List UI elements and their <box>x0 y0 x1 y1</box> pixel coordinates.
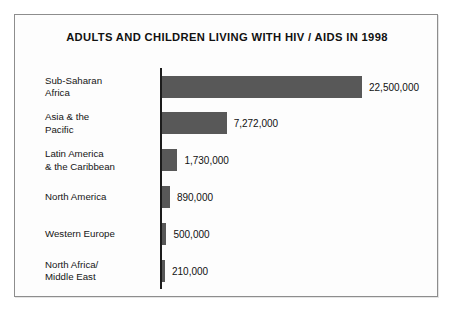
category-label: Western Europe <box>45 227 155 239</box>
bar <box>162 186 170 208</box>
chart-row: North Africa/ Middle East210,000 <box>15 252 439 289</box>
chart-row: Western Europe500,000 <box>15 215 439 252</box>
category-label: North America <box>45 191 155 203</box>
category-label: Asia & the Pacific <box>45 111 155 136</box>
bar <box>162 76 362 98</box>
bar-value-label: 7,272,000 <box>234 118 279 129</box>
bar <box>162 149 177 171</box>
chart-row: Asia & the Pacific7,272,000 <box>15 105 439 142</box>
category-label: Latin America & the Caribbean <box>45 148 155 173</box>
category-label: Sub-Saharan Africa <box>45 74 155 99</box>
chart-row: North America890,000 <box>15 178 439 215</box>
bar-value-label: 22,500,000 <box>369 81 419 92</box>
bar <box>162 223 166 245</box>
chart-row: Latin America & the Caribbean1,730,000 <box>15 142 439 179</box>
chart-row: Sub-Saharan Africa22,500,000 <box>15 68 439 105</box>
bar <box>162 260 165 282</box>
bar-value-label: 890,000 <box>177 191 213 202</box>
chart-frame: ADULTS AND CHILDREN LIVING WITH HIV / AI… <box>14 14 438 297</box>
bar-value-label: 210,000 <box>172 265 208 276</box>
bar-value-label: 1,730,000 <box>184 155 229 166</box>
bar-value-label: 500,000 <box>173 228 209 239</box>
bar-chart-plot-area: Sub-Saharan Africa22,500,000Asia & the P… <box>15 15 439 298</box>
category-label: North Africa/ Middle East <box>45 258 155 283</box>
bar <box>162 112 227 134</box>
